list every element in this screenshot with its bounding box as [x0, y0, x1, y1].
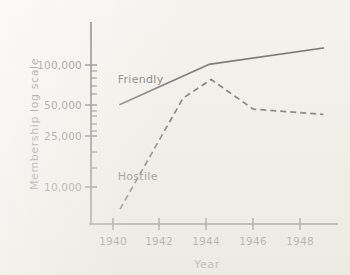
x-tick-label-1948: 1948 — [286, 235, 314, 247]
x-axis-title: Year — [193, 258, 220, 271]
y-tick-label-10000: 10,000 — [44, 181, 82, 193]
y-tick-label-50000: 50,000 — [44, 99, 82, 111]
y-tick-labels: 100,000 50,000 25,000 10,000 — [37, 59, 82, 193]
y-tick-label-25000: 25,000 — [44, 130, 82, 142]
series-label-friendly: Friendly — [118, 73, 164, 86]
x-tick-label-1942: 1942 — [145, 235, 173, 247]
chart-figure: 100,000 50,000 25,000 10,000 Membership … — [0, 0, 350, 275]
x-tick-labels: 1940 1942 1944 1946 1948 — [99, 235, 314, 247]
membership-log-scale-line-chart: 100,000 50,000 25,000 10,000 Membership … — [0, 0, 350, 275]
x-tick-label-1940: 1940 — [99, 235, 127, 247]
y-axis-title: Membership log scale — [28, 58, 41, 190]
y-tick-marks-minor — [91, 71, 97, 168]
y-tick-label-100000: 100,000 — [37, 59, 82, 71]
x-tick-label-1944: 1944 — [192, 235, 220, 247]
series-line-hostile — [120, 80, 323, 210]
x-tick-label-1946: 1946 — [239, 235, 267, 247]
series-label-hostile: Hostile — [118, 170, 158, 183]
